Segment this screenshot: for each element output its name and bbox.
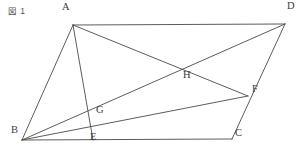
- vertex-label-G: G: [96, 105, 104, 116]
- segment-layer: [22, 24, 285, 140]
- vertex-label-F: F: [252, 84, 258, 95]
- segment-AF: [73, 25, 248, 96]
- segment-AB: [22, 25, 73, 140]
- geometry-figure: 図 1 ADBCEGHF: [0, 0, 300, 157]
- segment-BC: [22, 139, 232, 140]
- vertex-label-A: A: [62, 2, 70, 13]
- vertex-label-C: C: [235, 128, 242, 139]
- segment-DC: [232, 24, 285, 139]
- vertex-label-B: B: [11, 125, 18, 136]
- figure-canvas: [0, 0, 300, 157]
- vertex-label-D: D: [287, 1, 295, 12]
- segment-AD: [73, 24, 285, 25]
- segment-BF: [22, 96, 248, 140]
- segment-AE: [73, 25, 93, 140]
- segment-BD: [22, 24, 285, 140]
- vertex-label-H: H: [183, 70, 191, 81]
- vertex-label-E: E: [90, 132, 96, 143]
